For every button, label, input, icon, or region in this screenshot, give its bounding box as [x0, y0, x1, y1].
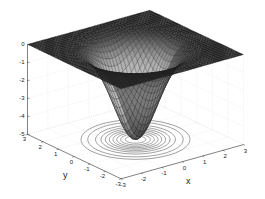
x-tick-label: 0 — [183, 165, 187, 171]
surface-plot: 0-1-2-3-4-5-3-2-10123-3-2-10123 x y — [0, 0, 265, 199]
y-axis-label: y — [63, 170, 68, 180]
y-tick-label: 2 — [38, 144, 42, 150]
y-tick-label: -2 — [100, 173, 106, 179]
z-tick-label: -1 — [19, 59, 25, 65]
x-tick-label: -1 — [161, 170, 167, 176]
y-tick-label: 3 — [23, 136, 27, 142]
y-tick-label: 1 — [54, 151, 58, 157]
x-tick-label: -3 — [120, 182, 126, 188]
z-tick-label: -3 — [19, 95, 25, 101]
surface-mesh — [28, 10, 244, 139]
y-tick-label: -1 — [84, 166, 90, 172]
z-tick-label: 0 — [21, 41, 25, 47]
x-tick-label: 3 — [244, 148, 248, 154]
z-tick-label: -2 — [19, 77, 25, 83]
x-tick-label: -2 — [141, 176, 147, 182]
x-axis-label: x — [186, 176, 191, 186]
z-tick-label: -4 — [19, 113, 25, 119]
y-tick-label: 0 — [70, 159, 74, 165]
x-tick-label: 2 — [223, 153, 227, 159]
x-tick-label: 1 — [203, 159, 207, 165]
